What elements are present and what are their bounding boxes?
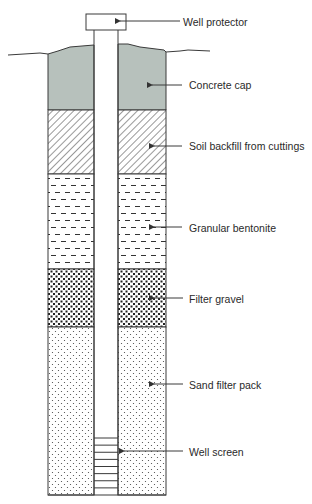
layer-gravel: [48, 269, 166, 327]
callout-label-well-screen: Well screen: [189, 446, 244, 458]
well-cross-section-diagram: [0, 0, 312, 504]
layer-bentonite: [48, 174, 166, 269]
callout-label-concrete-cap: Concrete cap: [189, 79, 251, 91]
callout-label-granular-bentonite: Granular bentonite: [189, 222, 276, 234]
ground-line-left: [8, 53, 48, 55]
callout-label-filter-gravel: Filter gravel: [189, 293, 244, 305]
well-protector-box: [86, 14, 126, 30]
callout-label-sand-filter-pack: Sand filter pack: [189, 379, 261, 391]
ground-line-right: [166, 50, 210, 52]
layer-concrete: [48, 44, 166, 110]
layers-group: [8, 44, 210, 495]
layer-soil: [48, 110, 166, 174]
layer-sand: [48, 327, 166, 495]
callout-label-soil-backfill-from-cuttings: Soil backfill from cuttings: [189, 140, 305, 152]
callout-label-well-protector: Well protector: [183, 16, 248, 28]
